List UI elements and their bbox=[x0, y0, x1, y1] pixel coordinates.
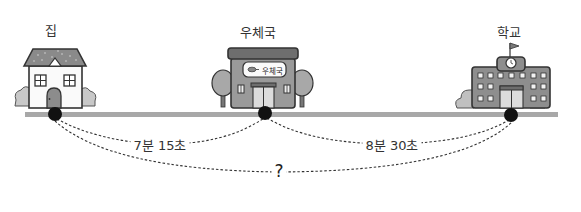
school-point bbox=[504, 108, 518, 122]
segment-label-home-post-office: 7분 15초 bbox=[131, 135, 190, 154]
post-office-icon bbox=[212, 48, 313, 108]
post-office-sign-text: 우체국 bbox=[262, 66, 283, 76]
school-label: 학교 bbox=[497, 22, 521, 41]
diagram-svg: 우체국 bbox=[0, 0, 581, 212]
diagram-stage: 우체국 bbox=[0, 0, 581, 212]
school-icon bbox=[456, 43, 550, 108]
segment-label-total-unknown: ? bbox=[271, 161, 286, 181]
house-icon bbox=[15, 49, 96, 108]
home-point bbox=[48, 107, 62, 121]
segment-label-post-office-school: 8분 30초 bbox=[363, 135, 422, 154]
post-office-point bbox=[258, 106, 272, 120]
road bbox=[25, 112, 558, 117]
home-label: 집 bbox=[45, 20, 57, 39]
post-office-label: 우체국 bbox=[240, 22, 276, 41]
